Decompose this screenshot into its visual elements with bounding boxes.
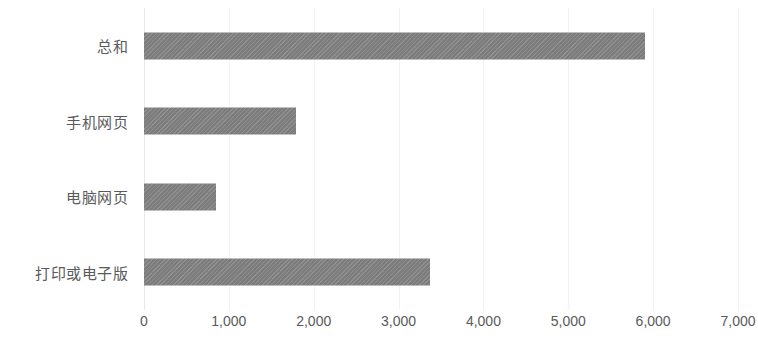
x-tick-label-2000: 2,000 — [296, 313, 331, 329]
x-tick-label-0: 0 — [140, 313, 148, 329]
category-label-3: 打印或电子版 — [0, 235, 136, 311]
x-tick-label-1000: 1,000 — [211, 313, 246, 329]
plot-area — [144, 8, 738, 310]
gridline-7000 — [738, 8, 739, 310]
x-tick-label-7000: 7,000 — [720, 313, 755, 329]
bar-row — [144, 159, 738, 235]
x-tick-label-6000: 6,000 — [636, 313, 671, 329]
bar-row — [144, 84, 738, 160]
x-tick-label-4000: 4,000 — [466, 313, 501, 329]
category-label-0: 总和 — [0, 8, 136, 84]
bar[interactable] — [144, 32, 645, 59]
bar[interactable] — [144, 108, 296, 135]
value-axis: 01,0002,0003,0004,0005,0006,0007,000 — [144, 313, 738, 341]
bar-row — [144, 235, 738, 311]
x-tick-label-5000: 5,000 — [551, 313, 586, 329]
x-tick-label-3000: 3,000 — [381, 313, 416, 329]
bar-chart: 总和 手机网页 电脑网页 打印或电子版 01,0002,0003,0004,00… — [0, 0, 758, 343]
bar-row — [144, 8, 738, 84]
bar[interactable] — [144, 183, 216, 210]
category-label-text: 电脑网页 — [66, 186, 128, 207]
category-label-text: 手机网页 — [66, 111, 128, 132]
category-label-1: 手机网页 — [0, 84, 136, 160]
category-axis-labels: 总和 手机网页 电脑网页 打印或电子版 — [0, 8, 136, 310]
bar[interactable] — [144, 259, 430, 286]
category-label-text: 打印或电子版 — [35, 262, 128, 283]
category-label-text: 总和 — [97, 35, 128, 56]
category-label-2: 电脑网页 — [0, 159, 136, 235]
